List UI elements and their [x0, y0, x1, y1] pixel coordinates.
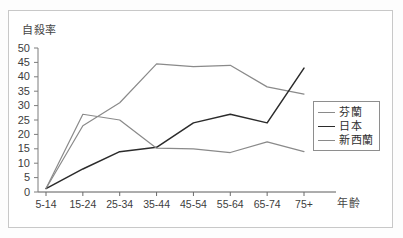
- y-tick-label: 25: [10, 115, 30, 126]
- legend-label-finland: 芬蘭: [339, 106, 362, 118]
- legend-line-swatch-finland: [318, 112, 335, 113]
- y-axis-label: 自殺率: [22, 24, 57, 37]
- legend-line-swatch-japan: [318, 126, 335, 127]
- y-tick-label: 15: [10, 143, 30, 154]
- series-line: [46, 114, 304, 188]
- y-tick-label: 10: [10, 158, 30, 169]
- x-tick-label: 45-54: [180, 199, 207, 210]
- x-axis-label: 年齡: [337, 197, 360, 210]
- legend-label-new-zealand: 新西蘭: [339, 134, 374, 146]
- x-tick-label: 35-44: [143, 199, 170, 210]
- chart-screenshot: 自殺率 年齡 50454035302520151050 5-1415-2425-…: [0, 0, 403, 238]
- y-tick-label: 45: [10, 57, 30, 68]
- x-tick-label: 65-74: [254, 199, 281, 210]
- y-tick-label: 35: [10, 86, 30, 97]
- y-tick-label: 0: [10, 187, 30, 198]
- y-tick-label: 30: [10, 100, 30, 111]
- x-tick-label: 25-34: [106, 199, 133, 210]
- series-line: [46, 64, 304, 189]
- y-tick-label: 5: [10, 172, 30, 183]
- y-tick-label: 20: [10, 129, 30, 140]
- legend-item-finland: 芬蘭: [318, 105, 374, 119]
- legend-item-new-zealand: 新西蘭: [318, 133, 374, 147]
- legend-label-japan: 日本: [339, 120, 362, 132]
- x-tick-label: 55-64: [217, 199, 244, 210]
- legend-line-swatch-new-zealand: [318, 140, 335, 141]
- x-tick-label: 15-24: [69, 199, 96, 210]
- x-tick-label: 75+: [295, 199, 313, 210]
- y-tick-label: 40: [10, 71, 30, 82]
- plot-area: [46, 48, 304, 192]
- x-tick-label: 5-14: [35, 199, 56, 210]
- chart-legend: 芬蘭 日本 新西蘭: [313, 101, 380, 151]
- line-chart-svg: [46, 48, 304, 192]
- legend-item-japan: 日本: [318, 119, 374, 133]
- y-tick-label: 50: [10, 43, 30, 54]
